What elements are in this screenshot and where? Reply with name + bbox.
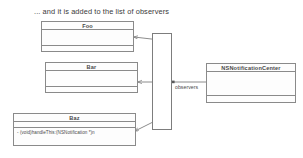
edge-center-to-observers	[172, 81, 206, 84]
class-box-baz[interactable]: Baz - (void)handleThis:(NSNotification *…	[13, 113, 136, 146]
class-attributes-bar	[46, 71, 137, 87]
class-method-baz-handlethis: - (void)handleThis:(NSNotification *)n	[14, 128, 135, 136]
class-box-foo[interactable]: Foo	[41, 21, 134, 52]
observers-list-box[interactable]	[152, 33, 172, 130]
diagram-canvas: ... and it is added to the list of obser…	[0, 0, 303, 158]
class-box-bar[interactable]: Bar	[45, 62, 138, 93]
class-methods-foo	[42, 46, 133, 51]
class-name-baz: Baz	[14, 114, 135, 122]
class-attributes-nsnotificationcenter	[207, 72, 295, 96]
class-attributes-foo	[42, 30, 133, 46]
class-methods-nsnotificationcenter	[207, 96, 295, 102]
diagram-caption: ... and it is added to the list of obser…	[34, 7, 169, 16]
class-name-nsnotificationcenter: NSNotificationCenter	[207, 64, 295, 72]
class-methods-bar	[46, 87, 137, 92]
edge-label-observers: observers	[175, 84, 198, 90]
class-methods-baz: - (void)handleThis:(NSNotification *)n	[14, 128, 135, 145]
class-box-nsnotificationcenter[interactable]: NSNotificationCenter	[206, 63, 296, 103]
class-name-bar: Bar	[46, 63, 137, 71]
class-name-foo: Foo	[42, 22, 133, 30]
